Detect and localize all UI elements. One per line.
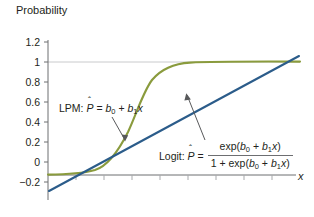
logit-annotation: Logit: ˆP = exp(b0 + b1x) 1 + exp(b0 + b…	[159, 140, 293, 172]
logit-den-close: )	[286, 157, 290, 169]
y-tick-label: 0.6	[0, 96, 40, 108]
lpm-prefix: LPM:	[59, 102, 84, 114]
logit-prefix: Logit:	[159, 150, 185, 162]
logit-fraction: exp(b0 + b1x) 1 + exp(b0 + b1x)	[208, 140, 293, 172]
y-axis-title: Probability	[16, 4, 67, 16]
logit-equals: =	[198, 150, 204, 162]
logit-den-one: 1 + exp(	[211, 157, 249, 169]
logit-den-plus: +	[262, 157, 268, 169]
lpm-b0-subscript: 0	[111, 107, 115, 116]
x-axis-title: x	[298, 170, 304, 182]
logit-num-plus: +	[253, 140, 259, 152]
lpm-leader-arrow	[112, 117, 128, 142]
fraction-bar	[208, 155, 293, 156]
x-axis-ticks	[76, 175, 272, 180]
lpm-x: x	[137, 102, 142, 114]
lpm-phat: ˆP	[86, 102, 93, 114]
logit-num-close: )	[277, 140, 281, 152]
lpm-equals: =	[96, 102, 102, 114]
y-tick-label: 0.4	[0, 116, 40, 128]
logit-numerator: exp(b0 + b1x)	[217, 140, 284, 154]
lpm-annotation: LPM: ˆP = b0 + b1x	[59, 102, 143, 116]
y-tick-label: −0.2	[0, 176, 40, 188]
y-tick-label: 0.8	[0, 76, 40, 88]
logit-phat: ˆP	[188, 150, 195, 162]
logit-num-exp: exp(	[220, 140, 240, 152]
y-tick-label: 0.2	[0, 136, 40, 148]
lpm-plus: +	[118, 102, 124, 114]
logit-hat-accent: ˆ	[188, 144, 194, 153]
logit-den-b0-subscript: 0	[255, 162, 259, 171]
logit-num-b0-subscript: 0	[246, 145, 250, 154]
chart-plot-area	[0, 0, 314, 217]
y-tick-label: 1.2	[0, 36, 40, 48]
y-axis-ticks	[44, 42, 48, 182]
lpm-hat-accent: ˆ	[86, 96, 92, 105]
y-tick-label: 1	[0, 56, 40, 68]
logit-vs-lpm-chart: Probability x 1.2 1 0.8 0.6 0.4 0.2 0 −0…	[0, 0, 314, 217]
logit-denominator: 1 + exp(b0 + b1x)	[208, 157, 293, 171]
y-tick-label: 0	[0, 156, 40, 168]
